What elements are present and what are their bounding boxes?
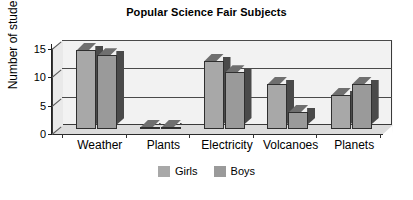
x-tick-mark: [189, 134, 190, 138]
y-tick-mark: [48, 49, 52, 50]
bar-front-face: [352, 84, 372, 129]
legend-item-girls: Girls: [158, 166, 198, 177]
y-tick-label: 0: [28, 129, 46, 140]
y-tick-label: 15: [28, 44, 46, 55]
legend-label-boys: Boys: [231, 166, 255, 177]
bar-front-face: [225, 72, 245, 129]
bar-side-face: [244, 68, 252, 125]
bar-weather-boys: [97, 55, 117, 129]
y-tick-mark: [48, 106, 52, 107]
x-tick-mark: [316, 134, 317, 138]
bar-weather-girls: [76, 50, 96, 129]
bar-front-face: [288, 112, 308, 129]
bar-plants-boys: [161, 127, 181, 129]
legend-swatch-boys: [214, 166, 226, 177]
bar-electricity-girls: [204, 61, 224, 129]
bar-chart: Popular Science Fair Subjects Number of …: [0, 0, 413, 200]
plot-floor-edge: [52, 134, 383, 135]
plot-area: [52, 40, 392, 134]
y-tick-mark: [48, 77, 52, 78]
bar-front-face: [161, 127, 181, 129]
x-tick-mark: [62, 134, 63, 138]
bar-front-face: [267, 84, 287, 129]
bar-planets-boys: [352, 84, 372, 129]
bar-side-face: [116, 51, 124, 125]
plot-left-wall: [52, 40, 63, 134]
x-label-planets: Planets: [309, 138, 399, 152]
bar-front-face: [76, 50, 96, 129]
legend-item-boys: Boys: [214, 166, 255, 177]
x-tick-mark: [380, 134, 381, 138]
y-tick-label: 10: [28, 72, 46, 83]
bar-front-face: [204, 61, 224, 129]
x-tick-mark: [126, 134, 127, 138]
bar-front-face: [140, 127, 160, 129]
legend-label-girls: Girls: [175, 166, 198, 177]
bar-electricity-boys: [225, 72, 245, 129]
y-axis-label: Number of students: [4, 0, 22, 92]
chart-title: Popular Science Fair Subjects: [0, 6, 413, 18]
bar-front-face: [97, 55, 117, 129]
bar-front-face: [331, 95, 351, 129]
bar-volcanoes-boys: [288, 112, 308, 129]
bar-plants-girls: [140, 127, 160, 129]
bar-planets-girls: [331, 95, 351, 129]
y-tick-label: 5: [28, 101, 46, 112]
bar-side-face: [371, 80, 379, 125]
y-tick-mark: [48, 134, 52, 135]
x-tick-mark: [253, 134, 254, 138]
bar-volcanoes-girls: [267, 84, 287, 129]
gridline: [62, 40, 392, 41]
legend-swatch-girls: [158, 166, 170, 177]
chart-legend: GirlsBoys: [0, 166, 413, 177]
